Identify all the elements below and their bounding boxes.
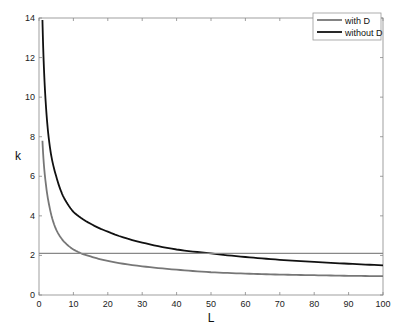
- y-tick-label: 14: [25, 13, 35, 23]
- x-tick-label: 20: [103, 299, 113, 309]
- x-axis-label: L: [208, 311, 215, 325]
- line-chart: 0102030405060708090100 02468101214 L k w…: [0, 0, 405, 330]
- y-tick-label: 2: [30, 250, 35, 260]
- x-tick-label: 80: [309, 299, 319, 309]
- y-tick-label: 10: [25, 92, 35, 102]
- y-tick-label: 6: [30, 171, 35, 181]
- x-tick-label: 40: [172, 299, 182, 309]
- y-tick-label: 12: [25, 53, 35, 63]
- x-tick-label: 100: [375, 299, 390, 309]
- y-axis-label: k: [15, 149, 22, 163]
- x-tick-label: 10: [68, 299, 78, 309]
- y-tick-label: 4: [30, 211, 35, 221]
- x-tick-label: 50: [206, 299, 216, 309]
- legend-label-with-d: with D: [344, 16, 371, 26]
- x-tick-label: 90: [344, 299, 354, 309]
- legend-label-without-d: without D: [344, 28, 383, 38]
- x-tick-label: 30: [137, 299, 147, 309]
- legend: with D without D: [313, 13, 383, 40]
- x-tick-label: 70: [275, 299, 285, 309]
- x-tick-label: 60: [240, 299, 250, 309]
- x-tick-label: 0: [36, 299, 41, 309]
- y-tick-label: 8: [30, 132, 35, 142]
- y-tick-label: 0: [30, 290, 35, 300]
